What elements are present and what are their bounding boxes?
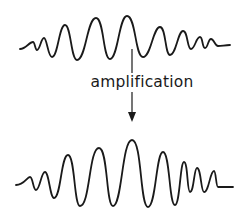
output-wave <box>16 140 233 207</box>
amplification-label: amplification <box>77 73 207 91</box>
input-wave <box>20 16 230 60</box>
arrow-down-icon <box>128 112 136 122</box>
amplification-diagram: amplification <box>0 0 247 221</box>
